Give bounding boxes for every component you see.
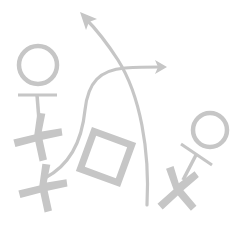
- x-player-left-upper: [11, 110, 65, 164]
- play-diagram-svg: [0, 0, 246, 227]
- x-icon: [16, 161, 70, 215]
- circle-player-right: [181, 113, 227, 180]
- circle-icon: [19, 46, 57, 84]
- square-icon: [80, 131, 131, 182]
- x-player-right: [147, 159, 209, 221]
- circle-icon: [193, 113, 227, 147]
- x-icon: [147, 159, 209, 221]
- play-diagram: [0, 0, 246, 227]
- x-icon: [11, 110, 65, 164]
- square-marker: [80, 131, 131, 182]
- circle-player-left: [18, 46, 57, 120]
- x-player-left-lower: [16, 161, 70, 215]
